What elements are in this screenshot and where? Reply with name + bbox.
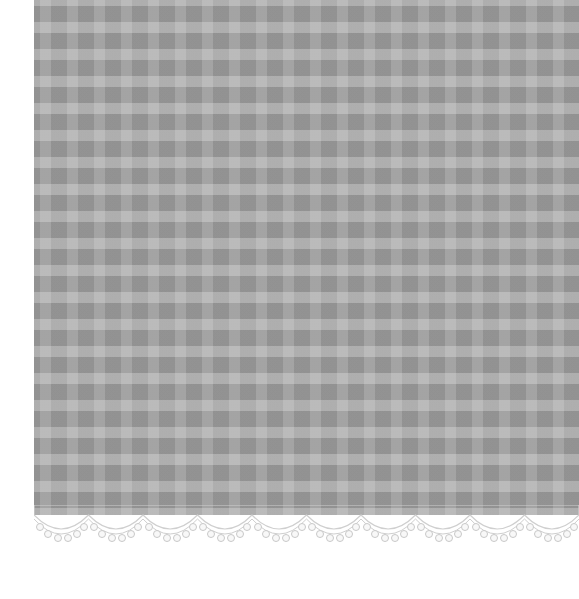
gingham-paper (34, 0, 579, 515)
lace-border (34, 505, 579, 555)
